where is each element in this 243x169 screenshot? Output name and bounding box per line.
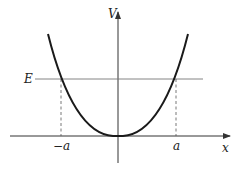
x-axis-label: x [222,141,229,155]
right-turning-point-label: a [173,139,180,153]
v-axis-label: V [108,7,118,21]
potential-well-diagram: V E −a a x [0,0,243,169]
energy-label: E [23,72,33,86]
left-turning-point-label: −a [53,139,70,153]
